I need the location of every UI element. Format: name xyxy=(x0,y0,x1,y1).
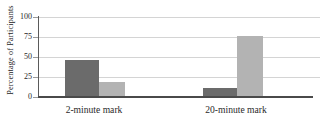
bar-2-minute-series-1 xyxy=(65,60,99,97)
y-tick-label-25: 25 xyxy=(2,73,32,81)
x-axis-category-label-0: 2-minute mark xyxy=(34,104,154,116)
plot-area xyxy=(38,17,320,97)
y-tick-label-75: 75 xyxy=(2,33,32,41)
y-tick-label-50: 50 xyxy=(2,53,32,61)
bar-2-minute-series-2 xyxy=(99,82,125,97)
y-tick-label-0: 0 xyxy=(2,93,32,101)
y-tick-label-100: 100 xyxy=(2,13,32,21)
x-axis-category-label-1: 20-minute mark xyxy=(172,104,300,116)
x-axis-line xyxy=(38,96,313,98)
y-axis-line xyxy=(38,16,39,98)
gridline-75 xyxy=(38,37,320,38)
gridline-50 xyxy=(38,57,320,58)
y-axis-tick-labels: 100 75 50 25 0 xyxy=(0,0,32,128)
bar-chart: Percentage of Participants 100 75 50 25 … xyxy=(0,0,325,128)
gridline-100 xyxy=(38,17,320,18)
bar-20-minute-series-2 xyxy=(237,36,263,97)
